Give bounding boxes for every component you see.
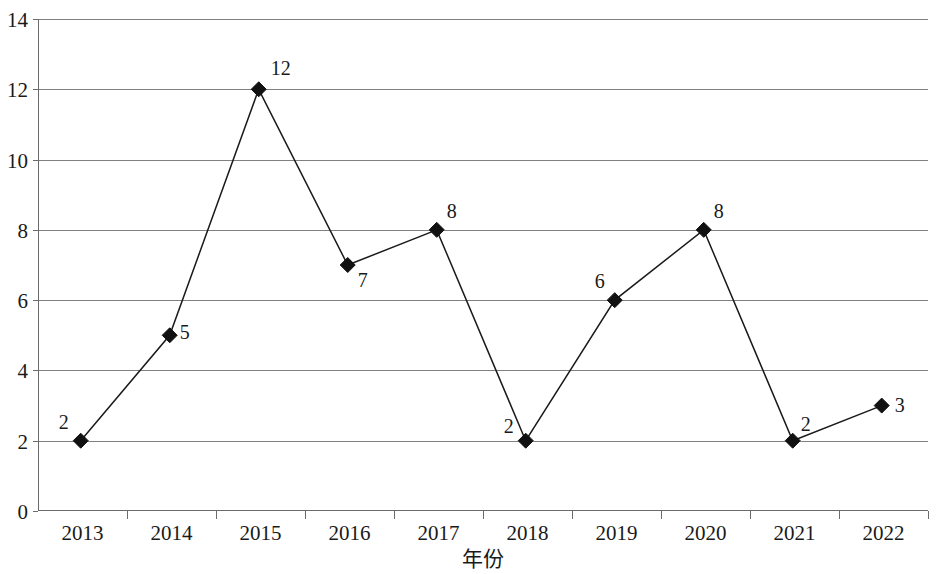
data-point-label: 7 <box>358 269 368 291</box>
chart-background <box>0 0 940 574</box>
data-point-label: 2 <box>59 411 69 433</box>
x-tick-label: 2017 <box>418 521 460 545</box>
y-tick-label: 6 <box>18 289 29 313</box>
data-point-label: 12 <box>271 57 291 79</box>
x-tick-label: 2018 <box>507 521 549 545</box>
x-tick-label: 2019 <box>596 521 638 545</box>
x-tick-label: 2022 <box>863 521 905 545</box>
x-tick-label: 2020 <box>685 521 727 545</box>
data-point-label: 8 <box>447 200 457 222</box>
x-tick-label: 2021 <box>774 521 816 545</box>
data-point-label: 5 <box>180 321 190 343</box>
x-tick-label: 2016 <box>329 521 371 545</box>
y-tick-label: 2 <box>18 430 29 454</box>
y-tick-label: 4 <box>18 359 29 383</box>
data-point-label: 6 <box>595 270 605 292</box>
y-tick-label: 12 <box>7 78 28 102</box>
x-tick-label: 2013 <box>62 521 104 545</box>
line-chart: 02468101214 2013201420152016201720182019… <box>0 0 940 574</box>
y-tick-label: 10 <box>7 149 28 173</box>
y-tick-label: 0 <box>18 500 29 524</box>
x-tick-label: 2015 <box>240 521 282 545</box>
data-point-label: 2 <box>504 415 514 437</box>
x-axis-title: 年份 <box>462 547 504 571</box>
data-point-label: 8 <box>714 200 724 222</box>
data-point-label: 3 <box>895 394 905 416</box>
chart-canvas: 02468101214 2013201420152016201720182019… <box>0 0 940 574</box>
y-tick-label: 8 <box>18 219 29 243</box>
x-tick-label: 2014 <box>151 521 194 545</box>
data-point-label: 2 <box>801 413 811 435</box>
y-tick-label: 14 <box>7 8 29 32</box>
